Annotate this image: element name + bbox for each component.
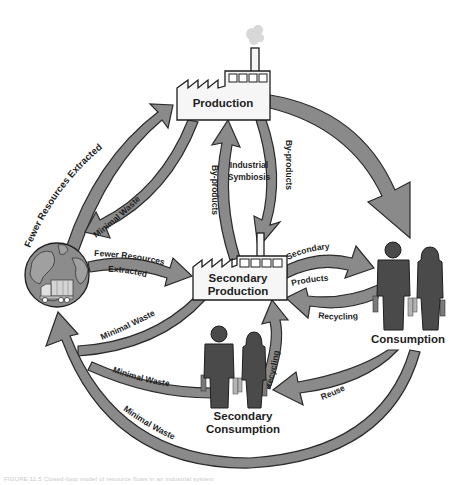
node-secondary-consumption-line2: Consumption bbox=[206, 423, 280, 435]
node-production: Production bbox=[193, 97, 254, 109]
secondary-production-factory-icon: Secondary Production bbox=[193, 233, 287, 300]
label-byproducts-right: By-products bbox=[284, 140, 294, 190]
figure-caption: FIGURE 11.5 Closed-loop model of resourc… bbox=[4, 476, 334, 485]
consumption-people-icon: Consumption bbox=[371, 242, 445, 345]
node-consumption: Consumption bbox=[371, 333, 445, 345]
industrial-ecosystem-diagram: Fewer Resources Extracted Minimal Waste … bbox=[0, 0, 468, 485]
node-industrial-symbiosis-line2: Symbiosis bbox=[228, 172, 271, 182]
production-factory-icon: Production bbox=[177, 25, 270, 120]
label-products: Products bbox=[290, 273, 329, 288]
arrow-production-to-secondary-byproducts bbox=[254, 120, 280, 248]
label-recycling-consumption: Recycling bbox=[318, 310, 359, 322]
node-secondary-consumption-line1: Secondary bbox=[214, 410, 273, 422]
chimney-icon bbox=[251, 48, 259, 72]
arrow-secondary-production-to-earth bbox=[78, 296, 205, 356]
node-industrial-symbiosis-line1: Industrial bbox=[230, 160, 268, 170]
label-byproducts-left: By-products bbox=[210, 165, 220, 215]
node-secondary-production-line2: Production bbox=[208, 285, 269, 297]
chimney-icon bbox=[257, 233, 264, 258]
smoke-icon bbox=[246, 25, 264, 45]
node-secondary-production-line1: Secondary bbox=[209, 272, 268, 284]
